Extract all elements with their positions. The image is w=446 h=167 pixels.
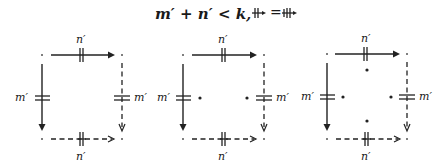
left-label: m′ xyxy=(301,90,314,103)
corner-dot xyxy=(121,54,123,56)
square-diagram-3: n′ m′ m′ n′ xyxy=(301,32,432,163)
square-diagram-2: n′ m′ m′ n′ xyxy=(157,33,289,163)
left-label: m′ xyxy=(157,91,170,104)
bottom-label: n′ xyxy=(218,150,228,163)
top-arrow xyxy=(192,48,257,62)
corner-dot xyxy=(326,138,328,140)
left-arrow xyxy=(35,64,50,131)
bottom-label: n′ xyxy=(361,150,371,163)
corner-dot xyxy=(182,54,184,56)
bottom-dashed-arrow xyxy=(51,132,114,146)
inner-dot xyxy=(389,95,392,98)
corner-dot xyxy=(406,138,408,140)
triple-tick-arrow-symbol xyxy=(282,8,297,18)
tick-equation: = xyxy=(252,4,297,20)
corner-dot xyxy=(406,53,408,55)
corner-dot xyxy=(326,53,328,55)
corner-dot xyxy=(263,54,265,56)
top-label: n′ xyxy=(218,33,228,46)
top-label: n′ xyxy=(76,33,86,46)
right-label: m′ xyxy=(134,91,147,104)
equals-sign: = xyxy=(270,4,282,20)
right-dashed-arrow xyxy=(114,63,130,131)
top-arrow xyxy=(335,47,400,61)
diagram-canvas: m′ + n′ < k, = n′ xyxy=(0,0,446,167)
bottom-dashed-arrow xyxy=(192,132,256,146)
inner-dot xyxy=(245,96,248,99)
inner-dot xyxy=(365,68,368,71)
right-dashed-arrow xyxy=(256,63,272,131)
bottom-dashed-arrow xyxy=(336,132,400,146)
corner-dot xyxy=(121,138,123,140)
inner-dot xyxy=(365,119,368,122)
right-label: m′ xyxy=(276,91,289,104)
title-formula: m′ + n′ < k, xyxy=(155,5,251,23)
corner-dot xyxy=(182,138,184,140)
inner-dot xyxy=(341,95,344,98)
corner-dot xyxy=(263,138,265,140)
corner-dot xyxy=(41,54,43,56)
double-tick-arrow-symbol xyxy=(252,8,266,18)
square-diagram-1: n′ m′ m′ n′ xyxy=(15,33,147,163)
left-label: m′ xyxy=(15,91,28,104)
corner-dot xyxy=(41,138,43,140)
top-label: n′ xyxy=(361,32,371,45)
left-arrow xyxy=(320,63,335,131)
right-dashed-arrow xyxy=(399,62,415,131)
bottom-label: n′ xyxy=(76,150,86,163)
right-label: m′ xyxy=(419,90,432,103)
left-arrow xyxy=(176,64,191,131)
top-arrow xyxy=(51,48,115,62)
inner-dot xyxy=(198,96,201,99)
